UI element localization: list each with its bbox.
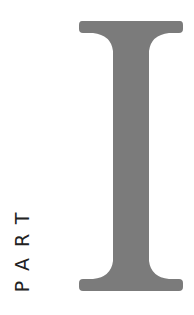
part-numeral-i <box>79 21 183 291</box>
part-label: PART <box>13 202 32 293</box>
roman-numeral-i-glyph <box>79 21 183 291</box>
